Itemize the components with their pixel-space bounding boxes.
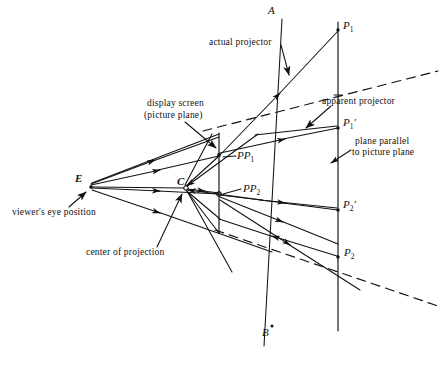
leader-PP2 bbox=[223, 189, 241, 194]
label-point-P2-sub: 2 bbox=[351, 252, 355, 261]
caption-plane-parallel-line1: plane parallel bbox=[355, 136, 409, 147]
ray-PP1-to-P1-a bbox=[220, 93, 280, 155]
label-point-P1-prime-mark: ′ bbox=[353, 116, 355, 128]
ray-E-to-screen-top bbox=[92, 134, 219, 183]
ray-E-to-C bbox=[92, 187, 184, 188]
label-point-PP1: PP1 bbox=[237, 149, 254, 164]
leader-actual-projector bbox=[281, 45, 289, 75]
ray-E-upper-aux-b bbox=[153, 137, 219, 161]
ray-P2-to-C-a bbox=[272, 236, 337, 256]
dashed-line-upper bbox=[203, 71, 438, 131]
leader-PP1 bbox=[223, 156, 236, 157]
label-point-P1-sub: 1 bbox=[350, 25, 354, 34]
ray-C-to-PP1 bbox=[186, 156, 219, 186]
label-point-PP2: PP2 bbox=[243, 182, 260, 197]
label-point-P2-prime-mark: ′ bbox=[353, 198, 355, 210]
label-point-C: C bbox=[177, 175, 184, 187]
caption-picture-plane: (picture plane) bbox=[144, 110, 203, 121]
ray-PP2-to-P2-a bbox=[220, 197, 283, 222]
node-E bbox=[89, 185, 93, 189]
leader-apparent-projector bbox=[306, 106, 331, 128]
label-point-P1-prime: P1′ bbox=[343, 116, 356, 131]
label-point-PP2-letter: PP bbox=[243, 182, 256, 194]
ray-E-to-PP1-a bbox=[91, 170, 160, 185]
label-point-P1: P1 bbox=[343, 19, 353, 34]
caption-actual-projector: actual projector bbox=[209, 37, 272, 48]
label-point-B: B bbox=[262, 326, 269, 338]
label-point-P2: P2 bbox=[344, 246, 354, 261]
node-P2 bbox=[336, 255, 339, 258]
node-B bbox=[271, 325, 274, 328]
label-point-P2-letter: P bbox=[344, 246, 351, 258]
node-P1-prime bbox=[336, 126, 339, 129]
projection-diagram-svg bbox=[0, 0, 440, 365]
caption-center-of-projection: center of projection bbox=[86, 247, 164, 258]
leader-plane-parallel bbox=[331, 150, 351, 163]
ray-P2-to-C-c bbox=[188, 192, 220, 219]
ray-E-to-PP1-b bbox=[158, 156, 219, 170]
caption-plane-parallel-line2: to picture plane bbox=[352, 147, 414, 158]
ray-PP2-to-P2-b bbox=[281, 221, 338, 244]
ray-E-lower-a bbox=[92, 190, 160, 213]
label-point-E: E bbox=[75, 172, 82, 184]
caption-viewers-eye-position: viewer's eye position bbox=[12, 207, 96, 218]
ray-E-upper-aux-a bbox=[91, 160, 155, 184]
label-point-PP1-letter: PP bbox=[237, 149, 250, 161]
node-points bbox=[89, 28, 339, 327]
leader-center-of-projection bbox=[157, 194, 182, 247]
label-point-P1-prime-letter: P bbox=[343, 116, 350, 128]
node-PP1 bbox=[217, 153, 221, 157]
caption-display-screen: display screen bbox=[147, 98, 204, 109]
ray-C-down bbox=[186, 190, 219, 233]
node-P1 bbox=[336, 28, 339, 31]
label-point-P2-prime-letter: P bbox=[343, 198, 350, 210]
node-P2-prime bbox=[336, 208, 339, 211]
label-point-PP2-sub: 2 bbox=[256, 188, 260, 197]
ray-PP2-to-P2prime-b bbox=[283, 203, 338, 210]
label-point-P2-prime: P2′ bbox=[343, 198, 356, 213]
label-point-P1-letter: P bbox=[343, 19, 350, 31]
leader-viewers-eye bbox=[69, 192, 86, 207]
diagram-canvas: actual projector display screen (picture… bbox=[0, 0, 440, 365]
ray-E-to-PP2-a bbox=[92, 188, 160, 191]
ray-PP1-to-P1-b bbox=[278, 31, 338, 95]
caption-apparent-projector: apparent projector bbox=[322, 96, 395, 107]
line-AB bbox=[264, 19, 282, 346]
label-point-A: A bbox=[268, 4, 275, 16]
ray-PP1-to-P1prime-b bbox=[283, 128, 338, 139]
ray-P2-to-C-b bbox=[219, 219, 274, 237]
ray-E-lower-b bbox=[158, 212, 272, 252]
label-point-PP1-sub: 1 bbox=[250, 155, 254, 164]
